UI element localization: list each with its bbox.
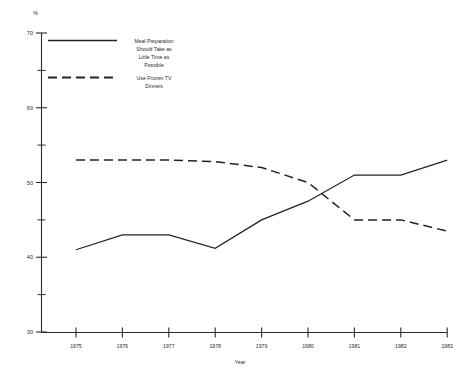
- x-tick-label-1975: 1975: [70, 343, 82, 349]
- legend-label-meal-preparation-line-3: Little Time as: [139, 54, 170, 60]
- y-tick-label-30: 30: [27, 329, 33, 335]
- legend-label-meal-preparation-line-2: Should Take as: [136, 46, 172, 52]
- y-tick-label-40: 40: [27, 254, 33, 260]
- x-tick-label-1976: 1976: [117, 343, 129, 349]
- line-chart: % 70 60 50 40 30: [0, 0, 468, 373]
- y-tick-label-70: 70: [27, 30, 33, 36]
- chart-canvas: % 70 60 50 40 30: [0, 0, 468, 373]
- x-tick-label-1982: 1982: [395, 343, 407, 349]
- x-tick-label-1980: 1980: [302, 343, 314, 349]
- y-tick-label-60: 60: [27, 105, 33, 111]
- x-tick-label-1983: 1983: [441, 343, 453, 349]
- legend-label-frozen-tv-dinners-line-2: Dinners: [145, 83, 163, 89]
- x-tick-label-1979: 1979: [256, 343, 268, 349]
- legend-label-frozen-tv-dinners-line-1: Use Frozen TV: [137, 75, 172, 81]
- x-tick-label-1978: 1978: [209, 343, 221, 349]
- legend-label-meal-preparation-line-4: Possible: [144, 62, 164, 68]
- x-axis-title: Year: [235, 359, 246, 365]
- y-axis-unit-label: %: [33, 10, 38, 16]
- series-line-meal-preparation: [76, 160, 447, 250]
- chart-legend: Meal Preparation Should Take as Little T…: [48, 38, 174, 89]
- x-tick-label-1977: 1977: [163, 343, 175, 349]
- y-tick-label-50: 50: [27, 180, 33, 186]
- x-tick-label-1981: 1981: [349, 343, 361, 349]
- legend-label-meal-preparation-line-1: Meal Preparation: [134, 38, 174, 44]
